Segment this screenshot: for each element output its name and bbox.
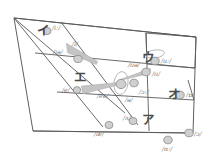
- ipa-label-uh: /ʌ/: [123, 115, 131, 121]
- kana-label-e: エ: [74, 72, 87, 85]
- marker-schwa: [116, 79, 126, 88]
- marker-ae: [105, 121, 113, 128]
- ipa-label-schwa: /ə/: [125, 97, 133, 103]
- ipa-label-ia-diphthong: /ɪə/: [53, 49, 63, 55]
- ipa-label-u-long: /uː/: [161, 58, 171, 64]
- ipa-label-open-o: /ɔ/: [194, 131, 202, 137]
- ipa-label-o-short: /ɒ/: [186, 92, 194, 98]
- kana-label-a: ア: [142, 114, 155, 127]
- ipa-label-ea-diphthong: /eə/: [97, 93, 109, 99]
- ipa-label-ua-diphthong: /ʊə/: [128, 62, 140, 68]
- diphthong-arrows: [66, 43, 150, 94]
- marker-ih: [74, 55, 82, 62]
- ipa-label-u-short: /ʊ/: [152, 71, 160, 77]
- kana-label-o: オ: [168, 89, 181, 102]
- vowel-chart-canvas: イ ウ エ オ ア /iː/ /ɪ/ /e/ /æ/ /ʌ/ /ɑː/ /ɔ/ …: [0, 0, 213, 164]
- ipa-label-ae: /æ/: [94, 131, 104, 137]
- vowel-quadrilateral-svg: [0, 0, 213, 164]
- marker-e: [73, 87, 80, 94]
- ipa-label-i-long: /iː/: [52, 25, 60, 31]
- kana-label-u: ウ: [142, 52, 155, 65]
- marker-open-o: [185, 129, 193, 137]
- ipa-label-ih: /ɪ/: [72, 41, 78, 47]
- ipa-label-o-long: /ɔː/: [139, 89, 149, 95]
- marker-a-long: [164, 136, 172, 144]
- kana-label-i: イ: [37, 25, 50, 38]
- ipa-label-e: /e/: [62, 87, 70, 93]
- marker-u-short: [142, 68, 150, 76]
- marker-o-long: [130, 79, 138, 87]
- ipa-label-a-long: /ɑː/: [162, 146, 172, 152]
